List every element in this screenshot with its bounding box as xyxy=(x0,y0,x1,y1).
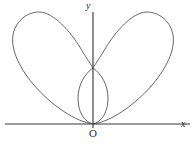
curve-left-petal xyxy=(13,12,93,124)
figure-container: y x O xyxy=(0,0,194,156)
x-axis-label: x xyxy=(181,119,185,129)
y-axis-label: y xyxy=(86,1,90,11)
curve-right-petal xyxy=(93,12,173,124)
origin-label: O xyxy=(89,128,97,139)
rose-curve-plot xyxy=(0,0,194,156)
